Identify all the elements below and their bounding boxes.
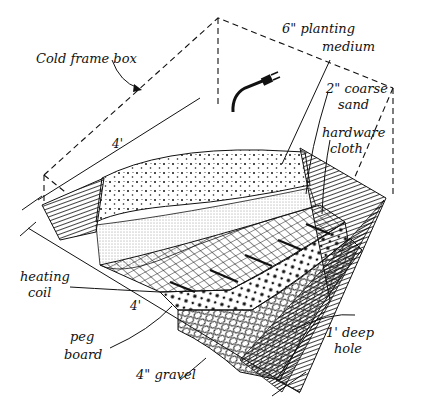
dimension-front-width: 4' [130,300,141,313]
label-heating-coil-2: coil [28,286,51,299]
hotbed-diagram: Cold frame box 6" planting medium 2" coa… [0,0,421,409]
label-cold-frame-box: Cold frame box [36,52,137,65]
label-hardware-cloth-1: hardware [322,126,385,139]
plug-icon [233,72,280,112]
label-coarse-sand-1: 2" coarse [326,82,388,95]
label-gravel: 4" gravel [136,368,196,381]
label-planting-medium-1: 6" planting [282,22,355,35]
label-deep-hole-2: hole [334,342,362,355]
label-planting-medium-2: medium [322,40,375,53]
label-deep-hole-1: 1' deep [326,326,374,339]
dimension-top-width: 4' [112,138,123,151]
label-coarse-sand-2: sand [338,98,369,111]
label-hardware-cloth-2: cloth [330,142,363,155]
label-peg-board-1: peg [70,330,94,343]
label-peg-board-2: board [64,348,102,361]
label-heating-coil-1: heating [20,270,70,283]
